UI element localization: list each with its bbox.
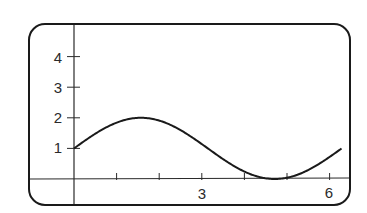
x-tick-label-6: 6	[325, 184, 333, 201]
x-tick-label-3: 3	[198, 185, 206, 202]
x-axis	[30, 178, 349, 179]
y-tick-label-2: 2	[54, 109, 62, 126]
y-tick-label-4: 4	[54, 49, 62, 66]
y-tick-label-3: 3	[54, 79, 62, 96]
chart: 3 6 1 2 3 4	[0, 0, 367, 213]
y-tick-label-1: 1	[54, 139, 62, 156]
sine-curve	[74, 118, 342, 179]
